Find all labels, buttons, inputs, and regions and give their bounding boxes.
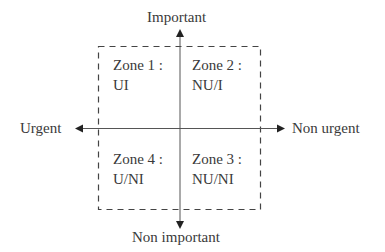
zone-4-title: Zone 4 : [113,149,163,169]
zone-2-code: NU/I [192,75,242,95]
arrow-down-icon [176,221,184,229]
axis-label-non-urgent: Non urgent [292,120,360,137]
zone-3-title: Zone 3 : [192,149,242,169]
zone-1: Zone 1 : UI [113,55,163,95]
arrow-left-icon [75,125,83,133]
axis-label-non-important: Non important [132,229,220,246]
zone-3-code: NU/NI [192,169,242,189]
zone-2-title: Zone 2 : [192,55,242,75]
axis-label-urgent: Urgent [20,120,61,137]
arrow-up-icon [176,29,184,37]
arrow-right-icon [277,125,285,133]
zone-4-code: U/NI [113,169,163,189]
zone-4: Zone 4 : U/NI [113,149,163,189]
zone-2: Zone 2 : NU/I [192,55,242,95]
zone-1-code: UI [113,75,163,95]
zone-3: Zone 3 : NU/NI [192,149,242,189]
zone-1-title: Zone 1 : [113,55,163,75]
axis-label-important: Important [147,9,206,26]
